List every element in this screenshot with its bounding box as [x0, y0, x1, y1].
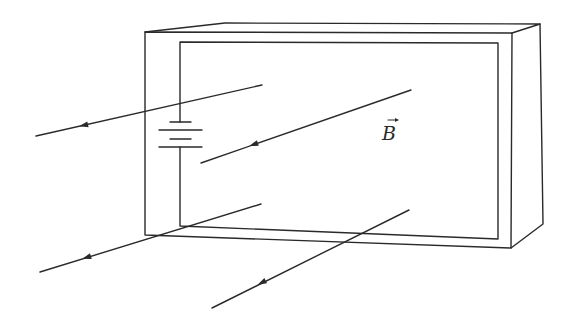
- loop-frame: [145, 23, 543, 248]
- field-line-4: [212, 210, 409, 308]
- field-label-text: B: [381, 122, 396, 144]
- outer-front-face: [145, 32, 512, 248]
- field-line-1: [36, 85, 262, 136]
- battery-icon: [159, 122, 202, 147]
- arrowhead-icon: [256, 278, 267, 287]
- field-line-2: [201, 90, 411, 163]
- right-depth-edge: [511, 24, 543, 248]
- arrowhead-icon: [78, 121, 88, 129]
- arrowhead-icon: [81, 253, 91, 261]
- field-lines: [36, 85, 411, 308]
- field-label-b: B: [381, 118, 399, 144]
- arrowhead-icon: [248, 140, 258, 149]
- magnetic-field-loop-diagram: B: [0, 0, 572, 328]
- inner-loop-wire: [180, 42, 498, 239]
